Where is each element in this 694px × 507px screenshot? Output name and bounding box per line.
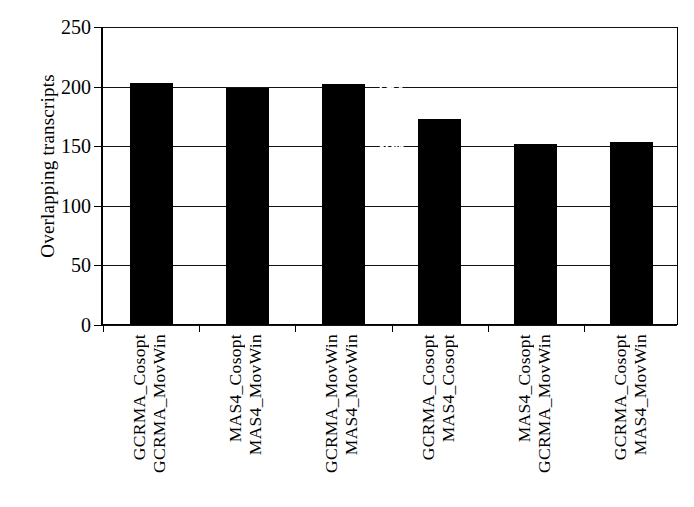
x-category-line2: GCRMA_MovWin xyxy=(149,334,169,473)
x-category-line2: MAS4_MovWin xyxy=(341,334,361,455)
x-category-line1: GCRMA_MovWin xyxy=(321,334,341,473)
bar-secondary-value: (14) xyxy=(103,99,677,120)
x-tick xyxy=(295,324,296,332)
bar xyxy=(610,142,653,324)
x-category-line2: GCRMA_MovWin xyxy=(534,334,554,473)
bar-chart-figure: Overlapping transcripts 050100150200250 … xyxy=(0,0,694,507)
y-tick-label-250: 250 xyxy=(61,17,91,37)
x-category-label: GCRMA_CosoptMAS4_MovWin xyxy=(582,334,678,499)
y-tick-label-50: 50 xyxy=(71,255,91,275)
bar-secondary-value: (11) xyxy=(103,122,677,143)
y-tick-100 xyxy=(94,206,103,207)
y-tick-label-150: 150 xyxy=(61,136,91,156)
x-tick xyxy=(488,324,489,332)
gridline-250 xyxy=(103,27,677,28)
bar xyxy=(418,119,461,324)
gridline-50 xyxy=(103,265,677,266)
x-category-line1: GCRMA_Cosopt xyxy=(418,334,438,460)
bar-primary-value: 153 xyxy=(103,78,677,99)
gridline-100 xyxy=(103,206,677,207)
y-tick-150 xyxy=(94,146,103,147)
plot-area: 050100150200250 202(12)198(12)201(13)172… xyxy=(101,27,678,325)
x-category-label: MAS4_CosoptGCRMA_MovWin xyxy=(486,334,582,499)
x-category-line1: GCRMA_Cosopt xyxy=(129,334,149,460)
y-tick-0 xyxy=(94,325,103,326)
x-tick xyxy=(199,324,200,332)
y-tick-label-0: 0 xyxy=(81,315,91,335)
bar-value-label: 153(14) xyxy=(103,78,677,120)
x-category-line2: MAS4_MovWin xyxy=(245,334,265,455)
bar-secondary-value: (13) xyxy=(103,156,677,177)
y-axis-title: Overlapping transcripts xyxy=(34,26,62,306)
x-category-label: GCRMA_MovWinMAS4_MovWin xyxy=(293,334,389,499)
x-category-label: GCRMA_CosoptMAS4_Cosopt xyxy=(390,334,486,499)
x-category-line2: MAS4_Cosopt xyxy=(438,334,458,442)
x-category-line1: GCRMA_Cosopt xyxy=(610,334,630,460)
x-category-line1: MAS4_Cosopt xyxy=(514,334,534,442)
x-category-label: GCRMA_CosoptGCRMA_MovWin xyxy=(101,334,197,499)
y-tick-50 xyxy=(94,265,103,266)
x-category-line2: MAS4_MovWin xyxy=(630,334,650,455)
y-tick-200 xyxy=(94,87,103,88)
y-tick-label-200: 200 xyxy=(61,77,91,97)
x-tick xyxy=(584,324,585,332)
y-tick-250 xyxy=(94,27,103,28)
x-category-label: MAS4_CosoptMAS4_MovWin xyxy=(197,334,293,499)
x-category-line1: MAS4_Cosopt xyxy=(225,334,245,442)
gridline-0 xyxy=(103,325,677,326)
y-tick-label-100: 100 xyxy=(61,196,91,216)
x-tick xyxy=(103,324,104,332)
bar xyxy=(514,144,557,324)
x-tick xyxy=(392,324,393,332)
